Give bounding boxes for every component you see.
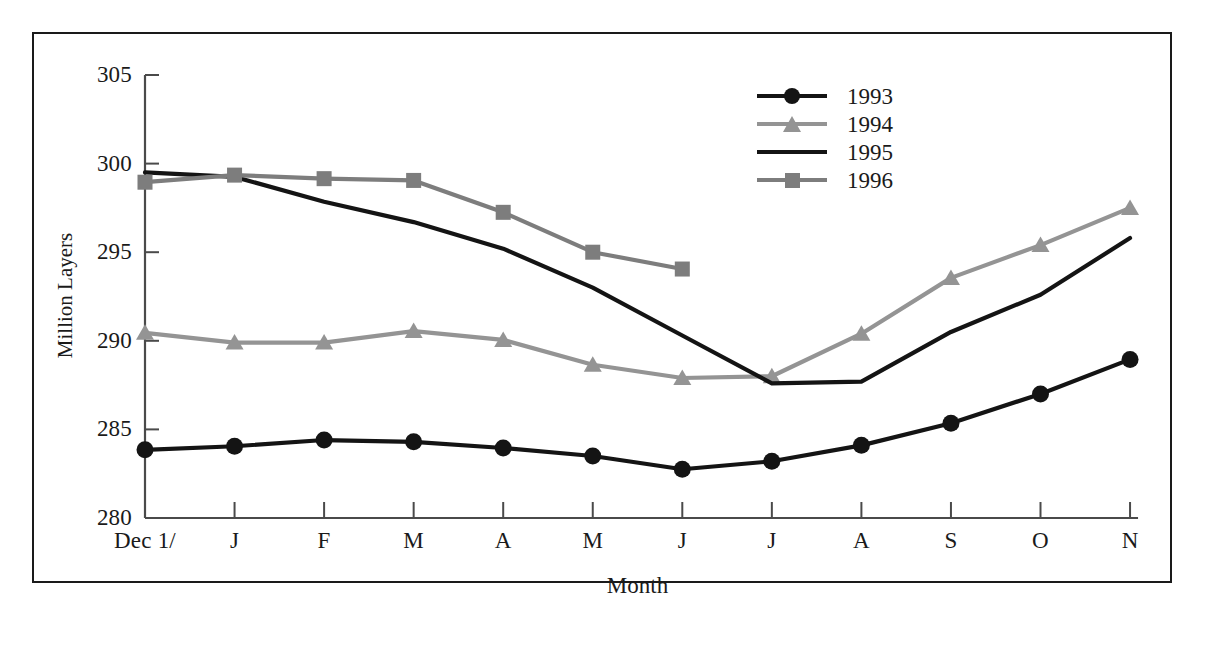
legend-square-marker-icon: [785, 173, 800, 188]
x-tick-label: F: [318, 528, 331, 554]
legend-swatch-1996: [757, 169, 827, 191]
legend-entry-1995[interactable]: 1995: [757, 138, 957, 166]
legend-label: 1995: [847, 141, 893, 164]
x-tick-label: M: [582, 528, 603, 554]
x-tick-label: A: [853, 528, 870, 554]
x-tick-label: J: [230, 528, 239, 554]
x-tick-label: J: [767, 528, 776, 554]
x-tick-label: M: [403, 528, 424, 554]
x-tick-label: Dec 1/: [114, 528, 176, 554]
chart-frame-border: [32, 32, 1172, 583]
x-axis-title: Month: [538, 573, 738, 599]
x-tick-label: S: [944, 528, 957, 554]
y-tick-label: 285: [60, 416, 132, 442]
x-tick-label: A: [495, 528, 512, 554]
legend-line-icon: [757, 150, 827, 154]
y-axis-title: Million Layers: [53, 175, 78, 415]
legend-triangle-marker-icon: [783, 116, 801, 132]
legend-swatch-1993: [757, 85, 827, 107]
legend-swatch-1994: [757, 113, 827, 135]
legend-entry-1993[interactable]: 1993: [757, 82, 957, 110]
x-tick-label: N: [1122, 528, 1139, 554]
y-tick-label: 300: [60, 151, 132, 177]
legend-label: 1993: [847, 85, 893, 108]
legend-entry-1994[interactable]: 1994: [757, 110, 957, 138]
legend-circle-marker-icon: [784, 88, 800, 104]
y-tick-label: 305: [60, 62, 132, 88]
chart-legend: 1993199419951996: [757, 82, 957, 194]
legend-swatch-1995: [757, 141, 827, 163]
legend-label: 1994: [847, 113, 893, 136]
legend-label: 1996: [847, 169, 893, 192]
figure-root: 305300295290285280 Dec 1/JFMAMJJASON Mil…: [0, 0, 1207, 648]
x-tick-label: O: [1032, 528, 1049, 554]
x-tick-label: J: [678, 528, 687, 554]
legend-entry-1996[interactable]: 1996: [757, 166, 957, 194]
